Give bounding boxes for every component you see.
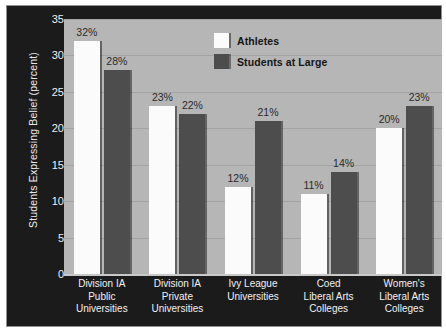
x-label-line: Private (152, 291, 204, 304)
y-tick-label: 0 (38, 268, 64, 280)
legend-label: Athletes (237, 35, 279, 47)
bar-value-label: 14% (333, 157, 354, 169)
y-tick-label: 5 (38, 232, 64, 244)
bar-students (406, 106, 432, 274)
x-label-line: Liberal Arts (379, 291, 429, 304)
x-label-line: Colleges (379, 303, 429, 316)
x-label-line: Universities (227, 291, 279, 304)
chart-panel: Students Expressing Belief (percent) 051… (6, 5, 442, 327)
bar-students (255, 121, 281, 274)
y-tick-label: 10 (38, 195, 64, 207)
bar-value-label: 20% (379, 113, 400, 125)
x-axis-category-label: Division IAPublicUniversities (76, 278, 128, 316)
x-axis-category-label: Ivy LeagueUniversities (227, 278, 279, 303)
bar-value-label: 22% (182, 99, 203, 111)
bar-students (331, 172, 357, 274)
y-tick-label: 20 (38, 122, 64, 134)
x-label-line: Universities (152, 303, 204, 316)
bar-students (179, 114, 205, 274)
bar-athletes (376, 128, 402, 274)
y-axis-ticks: 05101520253035 (29, 6, 64, 328)
bar-value-label: 12% (227, 172, 248, 184)
bar-value-label: 23% (409, 91, 430, 103)
x-axis-category-label: Division IAPrivateUniversities (152, 278, 204, 316)
x-label-line: Universities (76, 303, 128, 316)
x-label-line: Division IA (76, 278, 128, 291)
bar-value-label: 23% (152, 91, 173, 103)
legend-item: Students at Large (214, 54, 327, 69)
y-tick-label: 15 (38, 159, 64, 171)
legend-label: Students at Large (237, 56, 327, 68)
bar-athletes (301, 194, 327, 274)
x-label-line: Colleges (304, 303, 354, 316)
y-tick-label: 35 (38, 13, 64, 25)
x-label-line: Coed (304, 278, 354, 291)
chart-figure: Students Expressing Belief (percent) 051… (0, 0, 446, 333)
legend-swatch-students (214, 54, 229, 69)
x-label-line: Liberal Arts (304, 291, 354, 304)
y-tick-label: 25 (38, 86, 64, 98)
bar-athletes (225, 187, 251, 274)
x-label-line: Ivy League (227, 278, 279, 291)
x-axis-category-label: Women'sLiberal ArtsColleges (379, 278, 429, 316)
x-axis-labels: Division IAPublicUniversitiesDivision IA… (64, 278, 442, 328)
gridline (64, 19, 442, 20)
bar-value-label: 32% (76, 26, 97, 38)
legend-swatch-athletes (214, 33, 229, 48)
bar-students (104, 70, 130, 274)
bar-value-label: 11% (303, 179, 323, 191)
x-label-line: Division IA (152, 278, 204, 291)
legend-item: Athletes (214, 33, 327, 48)
bar-value-label: 21% (257, 106, 278, 118)
x-label-line: Women's (379, 278, 429, 291)
chart-legend: AthletesStudents at Large (214, 33, 327, 75)
x-axis-line (64, 274, 442, 276)
x-axis-category-label: CoedLiberal ArtsColleges (304, 278, 354, 316)
bar-athletes (149, 106, 175, 274)
bar-athletes (74, 41, 100, 274)
x-label-line: Public (76, 291, 128, 304)
y-tick-label: 30 (38, 49, 64, 61)
bar-value-label: 28% (106, 55, 127, 67)
